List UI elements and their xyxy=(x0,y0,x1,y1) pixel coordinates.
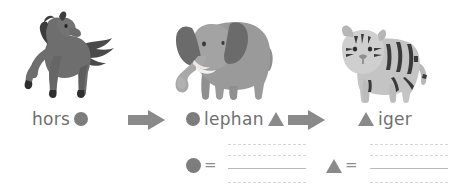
triangle-answer-key: = xyxy=(326,158,358,173)
writing-rule-mid xyxy=(228,155,306,156)
arrow-right-icon xyxy=(288,110,326,130)
writing-rule-descender xyxy=(370,182,448,183)
writing-rule-top xyxy=(228,144,306,145)
writing-rule-mid xyxy=(370,155,448,156)
writing-rule-top xyxy=(370,144,448,145)
writing-rule-descender xyxy=(228,182,306,183)
circle-answer-writing-lines[interactable] xyxy=(228,138,306,186)
horse-word-label: hors xyxy=(32,108,88,130)
tiger-word-label: iger xyxy=(358,108,412,130)
circle-answer-row: = xyxy=(186,138,306,188)
triangle-symbol xyxy=(358,112,374,126)
elephant-word-label: lephan xyxy=(186,108,284,130)
triangle-answer-row: = xyxy=(326,138,448,188)
equals-sign: = xyxy=(345,158,358,173)
triangle-symbol xyxy=(268,112,284,126)
circle-symbol xyxy=(186,112,200,126)
circle-symbol xyxy=(186,158,201,173)
arrow-right-icon xyxy=(128,110,166,130)
writing-rule-baseline xyxy=(228,168,306,169)
worksheet-canvas: hors xyxy=(0,0,456,190)
equals-sign: = xyxy=(204,158,217,173)
tiger-word-text: iger xyxy=(378,111,412,128)
circle-symbol xyxy=(74,112,88,126)
tiger-illustration xyxy=(328,22,432,104)
circle-answer-key: = xyxy=(186,158,217,173)
horse-word-text: hors xyxy=(32,111,70,128)
elephant-word-text: lephan xyxy=(204,111,264,128)
elephant-illustration xyxy=(168,12,280,104)
writing-rule-baseline xyxy=(370,168,448,169)
triangle-symbol xyxy=(326,159,342,173)
triangle-answer-writing-lines[interactable] xyxy=(370,138,448,186)
horse-illustration xyxy=(14,8,118,104)
